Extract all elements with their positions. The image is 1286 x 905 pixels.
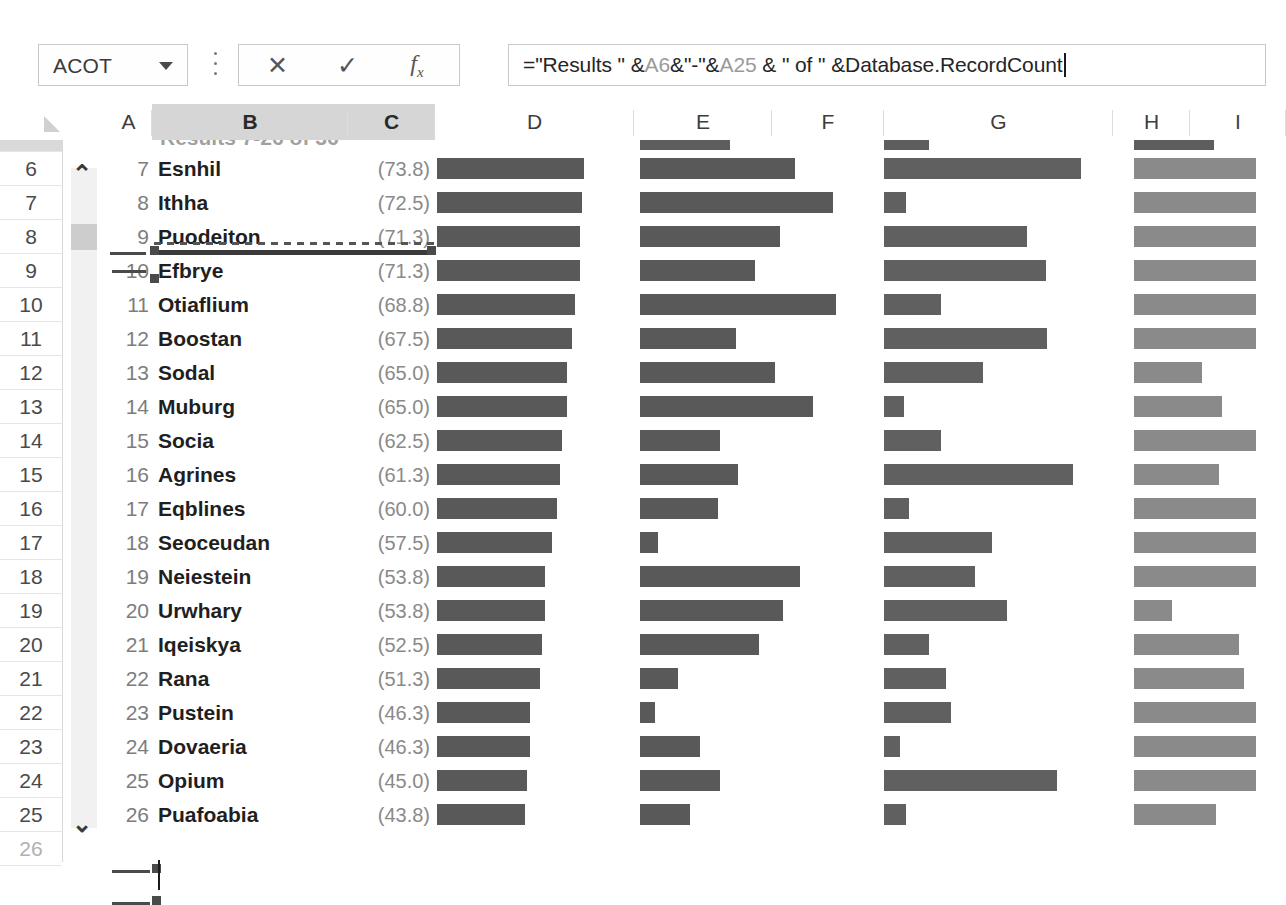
table-row[interactable]: 18Seoceudan(57.5) xyxy=(105,526,1286,560)
table-row[interactable]: 7Esnhil(73.8) xyxy=(105,152,1286,186)
cell-name[interactable]: Pustein xyxy=(158,696,353,730)
row-header-12[interactable]: 12 xyxy=(0,356,62,390)
table-row[interactable]: 14Muburg(65.0) xyxy=(105,390,1286,424)
row-header-17[interactable]: 17 xyxy=(0,526,62,560)
cell-value[interactable]: (46.3) xyxy=(355,730,430,764)
fill-handle-lower[interactable] xyxy=(152,896,161,905)
column-header-g[interactable]: G xyxy=(884,104,1113,140)
cell-value[interactable]: (57.5) xyxy=(355,526,430,560)
column-header-a[interactable]: A xyxy=(105,104,152,140)
cell-value[interactable]: (68.8) xyxy=(355,288,430,322)
enter-formula-button[interactable]: ✓ xyxy=(317,45,377,85)
table-row[interactable]: 21Iqeiskya(52.5) xyxy=(105,628,1286,662)
row-header-16[interactable]: 16 xyxy=(0,492,62,526)
table-row[interactable]: 19Neiestein(53.8) xyxy=(105,560,1286,594)
cell-name[interactable]: Iqeiskya xyxy=(158,628,353,662)
selection-handle-left[interactable] xyxy=(150,246,159,255)
table-row[interactable]: 26Puafoabia(43.8) xyxy=(105,798,1286,832)
cell-name[interactable]: Puafoabia xyxy=(158,798,353,832)
cell-rank[interactable]: 12 xyxy=(105,322,152,356)
cell-rank[interactable]: 19 xyxy=(105,560,152,594)
cell-rank[interactable]: 17 xyxy=(105,492,152,526)
cell-name[interactable]: Ithha xyxy=(158,186,353,220)
cell-name[interactable]: Socia xyxy=(158,424,353,458)
table-row[interactable]: 23Pustein(46.3) xyxy=(105,696,1286,730)
scrollbar-thumb[interactable] xyxy=(71,224,97,250)
cell-name[interactable]: Rana xyxy=(158,662,353,696)
cell-value[interactable]: (71.3) xyxy=(355,254,430,288)
cell-rank[interactable]: 24 xyxy=(105,730,152,764)
row-header-8[interactable]: 8 xyxy=(0,220,62,254)
cell-value[interactable]: (52.5) xyxy=(355,628,430,662)
row-header-6[interactable]: 6 xyxy=(0,152,62,186)
cell-name[interactable]: Neiestein xyxy=(158,560,353,594)
column-header-b[interactable]: B xyxy=(152,104,348,140)
table-row[interactable]: 15Socia(62.5) xyxy=(105,424,1286,458)
cell-value[interactable]: (53.8) xyxy=(355,560,430,594)
row-header-9[interactable]: 9 xyxy=(0,254,62,288)
cell-value[interactable]: (73.8) xyxy=(355,152,430,186)
cancel-formula-button[interactable]: ✕ xyxy=(247,45,307,85)
select-all-triangle-icon[interactable] xyxy=(44,116,60,132)
chevron-down-icon[interactable] xyxy=(159,62,173,70)
column-header-d[interactable]: D xyxy=(435,104,634,140)
clipped-merged-header-row[interactable]: Results 7-26 of 36 xyxy=(105,140,1286,152)
cell-name[interactable]: Opium xyxy=(158,764,353,798)
table-row[interactable]: 12Boostan(67.5) xyxy=(105,322,1286,356)
name-box[interactable]: ACOT xyxy=(38,44,188,86)
row-header-11[interactable]: 11 xyxy=(0,322,62,356)
cell-value[interactable]: (51.3) xyxy=(355,662,430,696)
cell-rank[interactable]: 21 xyxy=(105,628,152,662)
cell-value[interactable]: (67.5) xyxy=(355,322,430,356)
selection-handle-right[interactable] xyxy=(427,246,436,255)
cell-name[interactable]: Dovaeria xyxy=(158,730,353,764)
table-row[interactable]: 24Dovaeria(46.3) xyxy=(105,730,1286,764)
chevron-up-icon[interactable]: ⌃ xyxy=(72,162,92,186)
table-row[interactable]: 20Urwhary(53.8) xyxy=(105,594,1286,628)
row-header-26[interactable]: 26 xyxy=(0,832,62,866)
cell-rank[interactable]: 8 xyxy=(105,186,152,220)
column-header-f[interactable]: F xyxy=(772,104,884,140)
row-header-20[interactable]: 20 xyxy=(0,628,62,662)
cell-value[interactable]: (65.0) xyxy=(355,356,430,390)
cell-name[interactable]: Urwhary xyxy=(158,594,353,628)
row-header-13[interactable]: 13 xyxy=(0,390,62,424)
cell-name[interactable]: Puodeiton xyxy=(158,220,353,254)
vertical-ellipsis-icon[interactable] xyxy=(214,52,218,80)
cell-rank[interactable]: 9 xyxy=(105,220,152,254)
cell-rank[interactable]: 16 xyxy=(105,458,152,492)
cell-rank[interactable]: 11 xyxy=(105,288,152,322)
cell-rank[interactable]: 18 xyxy=(105,526,152,560)
cell-name[interactable]: Otiaflium xyxy=(158,288,353,322)
table-row[interactable]: 9Puodeiton(71.3) xyxy=(105,220,1286,254)
row-header-15[interactable]: 15 xyxy=(0,458,62,492)
selection-handle-bottom-left[interactable] xyxy=(150,274,159,283)
cell-rank[interactable]: 13 xyxy=(105,356,152,390)
table-row[interactable]: 16Agrines(61.3) xyxy=(105,458,1286,492)
table-row[interactable]: 8Ithha(72.5) xyxy=(105,186,1286,220)
table-row[interactable]: 11Otiaflium(68.8) xyxy=(105,288,1286,322)
table-row[interactable]: 17Eqblines(60.0) xyxy=(105,492,1286,526)
row-header-10[interactable]: 10 xyxy=(0,288,62,322)
cell-rank[interactable]: 15 xyxy=(105,424,152,458)
column-header-i[interactable]: I xyxy=(1190,104,1286,140)
cell-name[interactable]: Eqblines xyxy=(158,492,353,526)
cell-rank[interactable]: 14 xyxy=(105,390,152,424)
table-row[interactable]: 10Efbrye(71.3) xyxy=(105,254,1286,288)
row-header-19[interactable]: 19 xyxy=(0,594,62,628)
row-header-22[interactable]: 22 xyxy=(0,696,62,730)
column-header-e[interactable]: E xyxy=(634,104,772,140)
cell-value[interactable]: (65.0) xyxy=(355,390,430,424)
table-row[interactable]: 25Opium(45.0) xyxy=(105,764,1286,798)
cell-name[interactable]: Seoceudan xyxy=(158,526,353,560)
cell-value[interactable]: (60.0) xyxy=(355,492,430,526)
cell-value[interactable]: (45.0) xyxy=(355,764,430,798)
formula-input[interactable]: ="Results " &A6&"-"&A25 & " of " &Databa… xyxy=(508,44,1266,86)
chevron-down-icon[interactable]: ⌄ xyxy=(72,812,92,836)
row-header-18[interactable]: 18 xyxy=(0,560,62,594)
cell-rank[interactable]: 7 xyxy=(105,152,152,186)
cell-name[interactable]: Agrines xyxy=(158,458,353,492)
cell-rank[interactable]: 26 xyxy=(105,798,152,832)
insert-function-button[interactable]: fx xyxy=(387,45,447,85)
cell-name[interactable]: Sodal xyxy=(158,356,353,390)
